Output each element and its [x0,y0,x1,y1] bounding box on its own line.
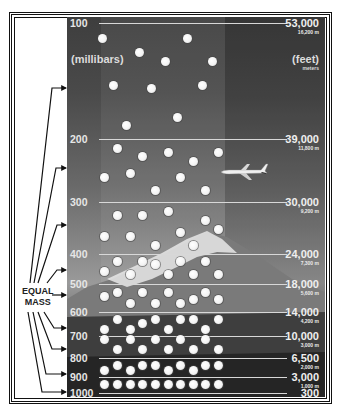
air-molecule-dot [176,257,185,266]
atmosphere-panel: 100 200 300 400 500 600 700 800 900 1000… [67,17,325,397]
air-molecule-dot [100,325,109,334]
pressure-label-600: 600 [70,307,88,318]
altitude-meters-5600: 5,600 m [301,290,319,296]
altitude-feet-3000: 3,000 [291,372,319,383]
air-molecule-dot [138,361,147,370]
air-molecule-dot [201,380,210,389]
air-molecule-dot [201,257,210,266]
air-molecule-dot [113,361,122,370]
isobar-500 [99,284,287,285]
air-molecule-dot [189,270,198,279]
air-molecule-dot [100,380,109,389]
pressure-label-300: 300 [70,197,88,208]
altitude-feet-10000: 10,000 [285,331,319,342]
air-molecule-dot [100,335,109,344]
pressure-label-400: 400 [70,249,88,260]
air-molecule-dot [214,295,223,304]
air-molecule-dot [151,241,160,250]
isobar-900 [99,377,287,378]
air-molecule-dot [113,257,122,266]
air-molecule-dot [201,216,210,225]
air-molecule-dot [161,57,170,66]
air-molecule-dot [164,366,173,375]
air-molecule-dot [214,315,223,324]
air-molecule-dot [113,144,122,153]
air-molecule-dot [176,299,185,308]
air-molecule-dot [151,186,160,195]
isobar-600 [99,312,287,313]
air-molecule-dot [176,228,185,237]
pressure-label-900: 900 [70,372,88,383]
pressure-label-200: 200 [70,134,88,145]
altitude-feet-24000: 24,000 [285,249,319,260]
air-molecule-dot [201,288,210,297]
air-molecule-dot [151,380,160,389]
air-molecule-dot [126,270,135,279]
air-molecule-dot [164,288,173,297]
pressure-label-700: 700 [70,331,88,342]
pressure-label-100: 100 [70,18,88,29]
air-molecule-dot [113,345,122,354]
altitude-feet-14000: 14,000 [285,307,319,318]
airplane-icon [219,163,269,181]
air-molecule-dot [189,366,198,375]
air-molecule-dot [126,380,135,389]
isobar-800 [99,358,287,359]
air-molecule-dot [126,325,135,334]
air-molecule-dot [176,380,185,389]
air-molecule-dot [164,325,173,334]
feet-unit-text: (feet) [292,53,319,65]
millibars-unit-label: (millibars) [71,53,124,65]
air-molecule-dot [151,335,160,344]
air-molecule-dot [183,34,192,43]
altitude-feet-53000: 53,000 [285,18,319,29]
air-molecule-dot [113,315,122,324]
air-molecule-dot [126,366,135,375]
air-molecule-dot [164,380,173,389]
altitude-meters-4200: 4,200 m [301,318,319,324]
pressure-label-500: 500 [70,279,88,290]
air-molecule-dot [100,173,109,182]
equal-mass-line-2: MASS [22,297,54,308]
air-molecule-dot [214,380,223,389]
air-molecule-dot [201,361,210,370]
air-molecule-dot [151,315,160,324]
altitude-feet-18000: 18,000 [285,279,319,290]
air-molecule-dot [214,270,223,279]
air-molecule-dot [176,173,185,182]
air-molecule-dot [100,366,109,375]
altitude-meters-16200: 16,200 m [298,29,319,35]
altitude-meters-9200: 9,200 m [301,208,319,214]
air-molecule-dot [100,232,109,241]
air-molecule-dot [173,113,182,122]
air-molecule-dot [214,148,223,157]
air-molecule-dot [164,345,173,354]
air-molecule-dot [98,34,107,43]
altitude-meters-2000: 2,000 m [301,364,319,370]
air-molecule-dot [201,325,210,334]
air-molecule-dot [138,380,147,389]
air-molecule-dot [113,288,122,297]
isobar-300 [99,202,287,203]
isobar-200 [99,139,287,140]
air-molecule-dot [138,345,147,354]
air-molecule-dot [138,257,147,266]
air-molecule-dot [201,335,210,344]
air-molecule-dot [214,361,223,370]
air-molecule-dot [189,380,198,389]
air-molecule-dot [164,270,173,279]
air-molecule-dot [135,48,144,57]
air-molecule-dot [109,81,118,90]
altitude-feet-6500: 6,500 [291,353,319,364]
altitude-meters-11800: 11,800 m [298,145,319,151]
air-molecule-dot [189,241,198,250]
air-molecule-dot [138,319,147,328]
altitude-feet-39000: 39,000 [285,134,319,145]
air-molecule-dot [176,315,185,324]
air-molecule-dot [138,288,147,297]
air-molecule-dot [208,57,217,66]
air-molecule-dot [147,84,156,93]
pressure-label-800: 800 [70,353,88,364]
altitude-meters-7300: 7,300 m [301,260,319,266]
altitude-meters-3000: 3,000 m [301,342,319,348]
